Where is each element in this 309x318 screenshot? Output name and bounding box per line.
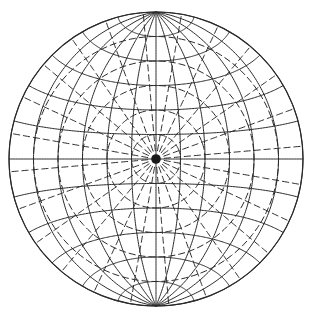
polar-meridian-line <box>157 167 169 305</box>
polar-meridian-line <box>163 75 277 155</box>
globe-graticule-diagram <box>0 0 309 318</box>
polar-meridian-line <box>62 165 151 271</box>
polar-meridian-line <box>36 164 150 244</box>
polar-meridian-line <box>10 160 148 172</box>
polar-meridian-line <box>164 146 302 158</box>
center-pole-hub <box>151 154 161 164</box>
polar-meridian-line <box>143 13 155 151</box>
